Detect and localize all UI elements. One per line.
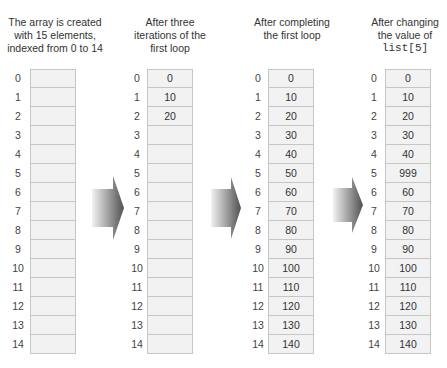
array-index: 7 [11,202,25,221]
array-index: 4 [130,145,144,164]
array-index: 2 [251,107,265,126]
array-index: 8 [11,221,25,240]
array-cell: 100 [385,259,431,278]
array-cell: 40 [268,145,314,164]
array-index: 1 [251,88,265,107]
right-arrow-icon [211,177,243,239]
caption-three-iterations: After three iterations of the first loop [115,16,225,55]
array-index: 13 [11,316,25,335]
array-index: 6 [130,183,144,202]
array-cell [30,107,76,126]
array-cell: 0 [268,69,314,88]
right-arrow-icon [92,176,126,240]
array-cell [30,164,76,183]
array-cell [147,202,193,221]
array-cell: 10 [385,88,431,107]
array-cell [147,145,193,164]
array-cell [147,183,193,202]
array-cell: 999 [385,164,431,183]
array-cell: 20 [147,107,193,126]
array-index: 7 [251,202,265,221]
array-cell: 80 [385,221,431,240]
array-index: 3 [11,126,25,145]
array-cell: 70 [385,202,431,221]
caption-line: The array is created [0,16,110,29]
array-index: 10 [130,259,144,278]
array-cell [30,88,76,107]
array-index: 3 [251,126,265,145]
array-cell: 110 [268,278,314,297]
array-cell [30,126,76,145]
array-index: 12 [130,297,144,316]
array-index: 13 [367,316,381,335]
caption-code: list[5] [350,42,447,55]
array-index: 10 [251,259,265,278]
array-index: 13 [251,316,265,335]
array-index: 12 [251,297,265,316]
caption-loop-complete: After completing the first loop [238,16,346,42]
caption-line: indexed from 0 to 14 [0,42,110,55]
array-index: 11 [130,278,144,297]
array-index: 9 [251,240,265,259]
array-cell [30,69,76,88]
array-index: 1 [11,88,25,107]
array-index: 14 [251,335,265,354]
array-index: 5 [11,164,25,183]
caption-line: first loop [115,42,225,55]
array-index: 6 [367,183,381,202]
right-arrow-icon [333,177,365,233]
array-index: 13 [130,316,144,335]
array-cell [147,126,193,145]
array-cell: 90 [385,240,431,259]
array-index: 6 [11,183,25,202]
array-index: 10 [367,259,381,278]
caption-line: the first loop [238,29,346,42]
array-index: 6 [251,183,265,202]
caption-line: with 15 elements, [0,29,110,42]
caption-line: iterations of the [115,29,225,42]
array-index: 9 [367,240,381,259]
array-cell: 100 [268,259,314,278]
array-cell: 120 [268,297,314,316]
array-index: 5 [130,164,144,183]
array-cell [147,221,193,240]
array-index: 2 [367,107,381,126]
array-cell: 30 [268,126,314,145]
array-index: 5 [251,164,265,183]
array-index: 3 [130,126,144,145]
array-cell: 50 [268,164,314,183]
array-index: 9 [130,240,144,259]
array-cell: 110 [385,278,431,297]
array-cell: 120 [385,297,431,316]
array-index: 1 [367,88,381,107]
array-index: 2 [11,107,25,126]
array-index: 10 [11,259,25,278]
array-index: 4 [11,145,25,164]
array-index: 8 [130,221,144,240]
array-cell [30,202,76,221]
array-cell: 140 [385,335,431,354]
array-cell: 60 [385,183,431,202]
array-index: 0 [130,69,144,88]
array-index: 8 [367,221,381,240]
array-cell: 0 [147,69,193,88]
array-index: 8 [251,221,265,240]
array-index: 11 [11,278,25,297]
array-cell: 0 [385,69,431,88]
array-cell [30,316,76,335]
array-cell [30,278,76,297]
array-cell: 60 [268,183,314,202]
array-cell: 10 [268,88,314,107]
caption-changed-value: After changing the value of list[5] [350,16,447,55]
array-cell [147,335,193,354]
array-cell: 30 [385,126,431,145]
caption-line: After three [115,16,225,29]
array-cell [30,297,76,316]
array-index: 2 [130,107,144,126]
array-cell [147,278,193,297]
array-cell: 70 [268,202,314,221]
array-index: 9 [11,240,25,259]
array-index: 0 [11,69,25,88]
array-index: 14 [130,335,144,354]
array-cell: 140 [268,335,314,354]
